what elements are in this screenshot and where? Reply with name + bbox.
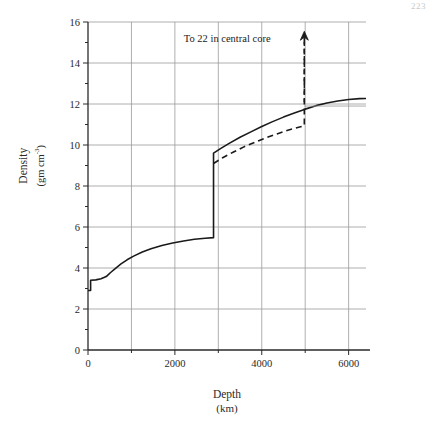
y-axis-unit-text: (gm cm (35, 154, 46, 186)
x-tick-label: 0 (85, 358, 90, 369)
x-axis-unit: (km) (88, 401, 366, 415)
data-series-group (88, 34, 366, 290)
y-tick-label: 12 (56, 99, 80, 110)
y-axis-unit: (gm cm-3) (30, 106, 48, 226)
x-axis-title: Depth (km) (88, 387, 366, 415)
y-tick-label: 4 (56, 263, 80, 274)
x-tick-label: 2000 (164, 358, 185, 369)
y-tick-label: 0 (56, 345, 80, 356)
x-tick-label: 6000 (338, 358, 359, 369)
series-line-density-solid (88, 98, 366, 290)
y-tick-label: 14 (56, 58, 80, 69)
axis-ticks (83, 22, 349, 355)
y-tick-label: 16 (56, 17, 80, 28)
y-tick-label: 8 (56, 181, 80, 192)
x-axis-title-text: Depth (213, 388, 241, 400)
y-tick-label: 10 (56, 140, 80, 151)
annotation-label: To 22 in central core (184, 33, 271, 44)
y-axis-unit-close: ) (35, 145, 46, 149)
y-tick-label: 2 (56, 304, 80, 315)
y-axis-title: Density (gm cm-3) (16, 106, 48, 226)
y-axis-unit-exponent: -3 (33, 148, 41, 154)
y-tick-label: 6 (56, 222, 80, 233)
gridlines (88, 22, 366, 350)
density-depth-figure: 223 0246810121416 0200040006000 Density … (0, 0, 432, 432)
y-axis-title-text: Density (17, 148, 29, 184)
x-tick-label: 4000 (251, 358, 272, 369)
